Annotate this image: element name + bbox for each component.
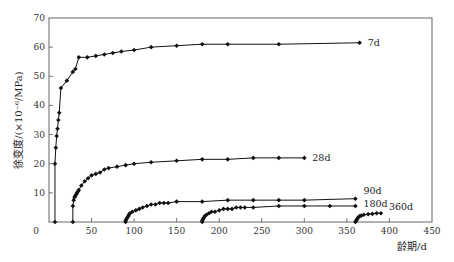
diamond-marker <box>94 172 99 177</box>
diamond-marker <box>123 163 128 168</box>
x-tick-label: 200 <box>211 226 228 236</box>
series-180d <box>200 204 358 225</box>
diamond-marker <box>111 51 116 56</box>
y-tick-label: 70 <box>34 13 46 23</box>
diamond-marker <box>238 205 243 210</box>
diamond-marker <box>53 220 58 225</box>
y-tick-label: 30 <box>34 130 46 140</box>
diamond-marker <box>225 207 230 212</box>
x-tick-label: 350 <box>338 226 355 236</box>
diamond-marker <box>251 198 256 203</box>
diamond-marker <box>366 212 371 217</box>
diamond-marker <box>53 161 58 166</box>
diamond-marker <box>225 157 230 162</box>
diamond-marker <box>225 198 230 203</box>
diamond-marker <box>277 156 282 161</box>
diamond-marker <box>357 40 362 45</box>
diamond-marker <box>277 198 282 203</box>
series-labels: 7d28d90d180d360d <box>312 37 413 212</box>
diamond-marker <box>217 208 222 213</box>
diamond-marker <box>302 156 307 161</box>
diamond-marker <box>242 205 247 210</box>
diamond-marker <box>213 210 218 215</box>
diamond-marker <box>102 52 107 57</box>
data-series <box>53 40 384 224</box>
diamond-marker <box>132 161 137 166</box>
y-tick-label: 50 <box>34 71 46 81</box>
diamond-marker <box>379 211 384 216</box>
diamond-marker <box>174 199 179 204</box>
diamond-marker <box>302 198 307 203</box>
diamond-marker <box>230 207 235 212</box>
series-28d <box>71 156 307 225</box>
series-7d <box>53 40 362 224</box>
diamond-marker <box>85 55 90 60</box>
diamond-marker <box>328 204 333 209</box>
diamond-marker <box>76 55 81 60</box>
diamond-marker <box>200 199 205 204</box>
series-label-90d: 90d <box>363 185 381 196</box>
diamond-marker <box>251 205 256 210</box>
diamond-marker <box>251 156 256 161</box>
y-tick-label: 40 <box>34 100 46 110</box>
diamond-marker <box>119 49 124 54</box>
diamond-marker <box>166 201 171 206</box>
diamond-marker <box>174 43 179 48</box>
diamond-marker <box>94 54 99 59</box>
diamond-marker <box>149 160 154 165</box>
diamond-marker <box>174 159 179 164</box>
diamond-marker <box>353 204 358 209</box>
diamond-marker <box>225 42 230 47</box>
diamond-marker <box>55 126 60 131</box>
x-axis-title: 龄期/d <box>397 240 427 252</box>
diamond-marker <box>200 157 205 162</box>
x-tick-label: 50 <box>86 226 98 236</box>
diamond-marker <box>277 204 282 209</box>
series-label-28d: 28d <box>312 152 330 163</box>
diamond-marker <box>234 205 239 210</box>
x-tick-label: 250 <box>253 226 270 236</box>
series-label-360d: 360d <box>389 201 413 212</box>
creep-chart: 0501001502002503003504004501020304050607… <box>0 0 454 262</box>
diamond-marker <box>302 204 307 209</box>
diamond-marker <box>56 118 61 123</box>
x-tick-label: 450 <box>423 226 440 236</box>
diamond-marker <box>221 207 226 212</box>
diamond-marker <box>149 202 154 207</box>
diamond-marker <box>370 212 375 217</box>
diamond-marker <box>54 145 59 150</box>
x-tick-label: 150 <box>168 226 185 236</box>
diamond-marker <box>200 42 205 47</box>
x-tick-label: 400 <box>381 226 398 236</box>
diamond-marker <box>153 202 158 207</box>
series-label-180d: 180d <box>363 198 387 209</box>
x-tick-label: 0 <box>33 226 39 236</box>
x-tick-label: 100 <box>126 226 143 236</box>
diamond-marker <box>54 134 59 139</box>
diamond-marker <box>374 211 379 216</box>
series-90d <box>123 196 357 224</box>
series-label-7d: 7d <box>368 37 380 48</box>
y-tick-label: 20 <box>34 159 46 169</box>
diamond-marker <box>149 45 154 50</box>
y-tick-label: 60 <box>34 42 46 52</box>
x-tick-label: 300 <box>296 226 313 236</box>
diamond-marker <box>157 201 162 206</box>
diamond-marker <box>57 110 62 115</box>
diamond-marker <box>71 220 76 225</box>
curve-line <box>55 43 360 222</box>
diamond-marker <box>115 164 120 169</box>
diamond-marker <box>132 48 137 53</box>
diamond-marker <box>277 42 282 47</box>
diamond-marker <box>71 204 76 209</box>
diamond-marker <box>145 204 150 209</box>
y-axis-title: 徐变度/(×10⁻⁶/MPa) <box>12 71 24 169</box>
y-tick-label: 10 <box>34 188 46 198</box>
diamond-marker <box>162 201 167 206</box>
diamond-marker <box>353 196 358 201</box>
diamond-marker <box>106 166 111 171</box>
